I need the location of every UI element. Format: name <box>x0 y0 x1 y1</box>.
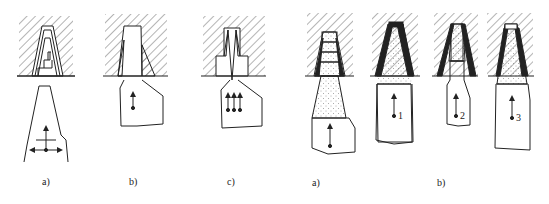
caption-right-a: a) <box>312 177 320 188</box>
panel-right-b-3: 3 <box>487 13 534 150</box>
point-label-1: 1 <box>398 110 403 121</box>
panel-right-a <box>305 13 355 154</box>
panel-right-b-2: 2 <box>432 13 478 126</box>
panel-right-b-1: 1 <box>370 13 420 144</box>
caption-right-b: b) <box>437 177 445 188</box>
point-label-3: 3 <box>516 112 521 123</box>
caption-left-b: b) <box>129 176 137 187</box>
diagram-canvas: 1 2 3 <box>0 0 549 204</box>
panel-left-c <box>201 16 266 128</box>
point-label-2: 2 <box>460 110 465 121</box>
caption-left-a: a) <box>42 176 50 187</box>
caption-left-c: c) <box>227 176 235 187</box>
panel-left-a <box>17 16 75 162</box>
panel-left-b <box>103 14 168 126</box>
